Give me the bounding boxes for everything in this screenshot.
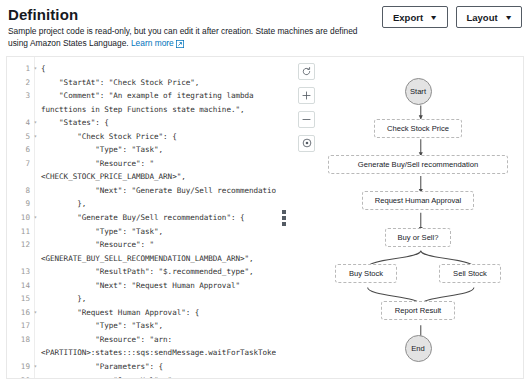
- editor-code-line: "QueueUrl": ": [41, 374, 276, 378]
- definition-panel: 1▾234▾5▾678910▾111213141516▾171819▾20 { …: [6, 56, 524, 379]
- graph-node-label: Buy or Sell?: [398, 233, 439, 242]
- code-editor[interactable]: 1▾234▾5▾678910▾111213141516▾171819▾20 { …: [6, 56, 276, 379]
- editor-code-line: "Type": "Task",: [41, 319, 276, 333]
- definition-header: Definition Sample project code is read-o…: [0, 0, 530, 55]
- description-line-2: Amazon States Language.: [30, 38, 129, 48]
- editor-code-line: },: [41, 197, 276, 211]
- editor-line-number: 13: [7, 265, 34, 279]
- panel-resize-handle[interactable]: [276, 56, 292, 379]
- graph-node-label: Request Human Approval: [375, 196, 462, 205]
- export-button[interactable]: Export ▼: [382, 6, 448, 28]
- editor-code-line: "States": {: [41, 116, 276, 130]
- chevron-down-icon: ▼: [504, 14, 513, 21]
- graph-node-sell[interactable]: Sell Stock: [439, 264, 501, 283]
- editor-line-number: 18: [7, 333, 34, 347]
- editor-line-number: 19▾: [7, 360, 34, 374]
- graph-node-generate[interactable]: Generate Buy/Sell recommendation: [328, 155, 508, 174]
- graph-node-label: Start: [410, 87, 426, 96]
- editor-line-number: 20: [7, 374, 34, 379]
- graph-nodes: StartCheck Stock PriceGenerate Buy/Sell …: [292, 57, 523, 378]
- graph-node-check[interactable]: Check Stock Price: [374, 119, 462, 138]
- header-actions: Export ▼ Layout ▼: [382, 6, 522, 28]
- graph-node-label: End: [411, 344, 425, 353]
- graph-refresh-button[interactable]: [298, 63, 315, 80]
- editor-code-line: "Type": "Task",: [41, 143, 276, 157]
- editor-code-line: "Next": "Request Human Approval": [41, 279, 276, 293]
- graph-node-label: Generate Buy/Sell recommendation: [358, 160, 478, 169]
- grip-dot: [282, 210, 286, 214]
- center-focus-icon: [302, 136, 312, 151]
- editor-code-line: {: [41, 62, 276, 76]
- editor-line-number: [7, 252, 34, 266]
- editor-code-line: },: [41, 292, 276, 306]
- editor-code-line: "Resource": "arn:: [41, 333, 276, 347]
- graph-node-label: Report Result: [395, 306, 441, 315]
- editor-line-number: 11: [7, 225, 34, 239]
- editor-line-number: 17: [7, 319, 34, 333]
- refresh-icon: [302, 64, 311, 79]
- graph-node-label: Buy Stock: [349, 269, 383, 278]
- editor-line-number: 5▾: [7, 130, 34, 144]
- graph-zoom-out-button[interactable]: [298, 111, 315, 128]
- editor-code-line: functtions in Step Functions state machi…: [41, 103, 276, 117]
- editor-code-line: <CHECK_STOCK_PRICE_LAMBDA_ARN>",: [41, 170, 276, 184]
- editor-line-number: [7, 170, 34, 184]
- editor-line-number: [7, 346, 34, 360]
- learn-more-link[interactable]: Learn more: [131, 38, 174, 48]
- state-machine-graph: StartCheck Stock PriceGenerate Buy/Sell …: [292, 56, 524, 379]
- grip-dot: [282, 222, 286, 226]
- external-link-icon: [176, 40, 184, 52]
- layout-button-label: Layout: [466, 12, 497, 23]
- graph-center-button[interactable]: [298, 135, 315, 152]
- graph-node-start[interactable]: Start: [405, 78, 432, 105]
- graph-node-report[interactable]: Report Result: [381, 301, 455, 320]
- editor-code-line: "Resource": ": [41, 238, 276, 252]
- editor-code-line: "Resource": ": [41, 157, 276, 171]
- editor-line-number: 8: [7, 184, 34, 198]
- editor-code-line: "Request Human Approval": {: [41, 306, 276, 320]
- editor-code-line: "Comment": "An example of itegrating lam…: [41, 89, 276, 103]
- editor-line-number: 12: [7, 238, 34, 252]
- editor-code-line: "Check Stock Price": {: [41, 130, 276, 144]
- chevron-down-icon: ▼: [429, 14, 438, 21]
- layout-button[interactable]: Layout ▼: [456, 6, 522, 28]
- graph-node-label: Check Stock Price: [387, 124, 449, 133]
- editor-line-number: 2: [7, 76, 34, 90]
- editor-code-area[interactable]: { "StartAt": "Check Stock Price", "Comme…: [35, 57, 276, 378]
- editor-code-line: "ResultPath": "$.recommended_type",: [41, 265, 276, 279]
- editor-code-line: <GENERATE_BUY_SELL_RECOMMENDATION_LAMBDA…: [41, 252, 276, 266]
- graph-zoom-in-button[interactable]: [298, 87, 315, 104]
- editor-line-number: 4▾: [7, 116, 34, 130]
- editor-line-number: 10▾: [7, 211, 34, 225]
- editor-line-number: 1▾: [7, 62, 34, 76]
- editor-code-line: "StartAt": "Check Stock Price",: [41, 76, 276, 90]
- editor-line-number: 3: [7, 89, 34, 103]
- editor-line-number: 7: [7, 157, 34, 171]
- graph-node-end[interactable]: End: [405, 335, 432, 362]
- graph-controls: [298, 63, 315, 152]
- export-button-label: Export: [393, 12, 423, 23]
- grip-dot: [282, 216, 286, 220]
- editor-line-number: 6: [7, 143, 34, 157]
- editor-line-number: [7, 103, 34, 117]
- editor-code-line: "Next": "Generate Buy/Sell recommendatio…: [41, 184, 276, 198]
- drag-grip-icon: [282, 210, 286, 226]
- editor-code-line: <PARTITION>:states:::sqs:sendMessage.wai…: [41, 346, 276, 360]
- editor-code-line: "Generate Buy/Sell recommendation": {: [41, 211, 276, 225]
- graph-node-choice[interactable]: Buy or Sell?: [385, 228, 451, 247]
- zoom-out-icon: [302, 112, 311, 127]
- editor-code-line: "Type": "Task",: [41, 225, 276, 239]
- editor-line-number: 15: [7, 292, 34, 306]
- editor-line-number: 14: [7, 279, 34, 293]
- editor-line-number: 9: [7, 197, 34, 211]
- graph-node-label: Sell Stock: [453, 269, 487, 278]
- page-description: Sample project code is read-only, but yo…: [8, 26, 358, 51]
- graph-node-buy[interactable]: Buy Stock: [335, 264, 397, 283]
- editor-line-number: 16▾: [7, 306, 34, 320]
- zoom-in-icon: [302, 88, 311, 103]
- editor-line-number-gutter: 1▾234▾5▾678910▾111213141516▾171819▾20: [7, 57, 35, 378]
- graph-node-approval[interactable]: Request Human Approval: [362, 191, 474, 210]
- editor-code-line: "Parameters": {: [41, 360, 276, 374]
